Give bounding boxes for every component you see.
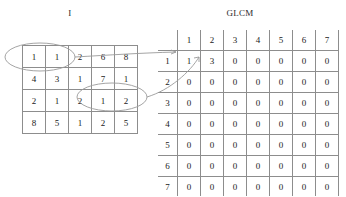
glcm-cell: 0 xyxy=(316,156,339,177)
glcm-cell: 0 xyxy=(316,114,339,135)
glcm-cell: 0 xyxy=(224,72,247,93)
glcm-cell: 0 xyxy=(270,135,293,156)
glcm-row-header: 2 xyxy=(158,72,178,93)
image-cell: 1 xyxy=(92,90,115,112)
image-cell: 1 xyxy=(69,68,92,90)
table-row: 6 0 0 0 0 0 0 0 xyxy=(158,156,339,177)
glcm-cell: 0 xyxy=(201,156,224,177)
image-cell: 2 xyxy=(69,46,92,68)
glcm-row-header: 5 xyxy=(158,135,178,156)
image-cell: 8 xyxy=(23,112,46,134)
glcm-col-header: 6 xyxy=(293,30,316,51)
image-cell: 1 xyxy=(23,46,46,68)
image-cell: 3 xyxy=(46,68,69,90)
glcm-cell: 1 xyxy=(178,51,201,72)
glcm-header: 1 2 3 4 5 6 7 xyxy=(158,30,339,51)
table-row: 7 0 0 0 0 0 0 0 xyxy=(158,177,339,197)
table-row: 8 5 1 2 5 xyxy=(23,112,138,134)
glcm-body: 1 1 3 0 0 0 0 0 2 0 0 0 0 0 0 0 3 0 0 0 … xyxy=(158,51,339,197)
glcm-cell: 0 xyxy=(316,135,339,156)
image-cell: 5 xyxy=(46,112,69,134)
glcm-row-header: 6 xyxy=(158,156,178,177)
glcm-cell: 0 xyxy=(247,93,270,114)
image-cell: 6 xyxy=(92,46,115,68)
table-row: 1 1 2 6 8 xyxy=(23,46,138,68)
glcm-cell: 0 xyxy=(178,177,201,197)
glcm-cell: 0 xyxy=(293,135,316,156)
glcm-cell: 0 xyxy=(224,135,247,156)
glcm-cell: 0 xyxy=(178,114,201,135)
glcm-cell: 0 xyxy=(270,177,293,197)
glcm-cell: 0 xyxy=(178,156,201,177)
image-cell: 8 xyxy=(115,46,138,68)
glcm-cell: 0 xyxy=(201,177,224,197)
image-cell: 2 xyxy=(23,90,46,112)
glcm-title: GLCM xyxy=(170,8,310,18)
image-cell: 7 xyxy=(92,68,115,90)
glcm-row-header: 4 xyxy=(158,114,178,135)
glcm-col-header: 2 xyxy=(201,30,224,51)
glcm-cell: 3 xyxy=(201,51,224,72)
glcm-cell: 0 xyxy=(270,114,293,135)
glcm-cell: 0 xyxy=(224,156,247,177)
glcm-cell: 0 xyxy=(270,51,293,72)
glcm-cell: 0 xyxy=(247,156,270,177)
glcm-cell: 0 xyxy=(201,72,224,93)
glcm-cell: 0 xyxy=(201,114,224,135)
glcm-col-header: 1 xyxy=(178,30,201,51)
image-cell: 1 xyxy=(69,112,92,134)
glcm-cell: 0 xyxy=(247,51,270,72)
image-cell: 4 xyxy=(23,68,46,90)
glcm-cell: 0 xyxy=(316,72,339,93)
glcm-cell: 0 xyxy=(270,93,293,114)
table-row: 2 1 2 1 2 xyxy=(23,90,138,112)
image-matrix-title: I xyxy=(0,8,140,18)
glcm-cell: 0 xyxy=(247,114,270,135)
glcm-cell: 0 xyxy=(224,93,247,114)
glcm-row-header: 3 xyxy=(158,93,178,114)
image-cell: 1 xyxy=(46,46,69,68)
table-row: 4 3 1 7 1 xyxy=(23,68,138,90)
table-row: 4 0 0 0 0 0 0 0 xyxy=(158,114,339,135)
image-cell: 2 xyxy=(92,112,115,134)
glcm-cell: 0 xyxy=(270,72,293,93)
glcm-cell: 0 xyxy=(293,72,316,93)
glcm-row-header: 7 xyxy=(158,177,178,197)
glcm-cell: 0 xyxy=(293,114,316,135)
table-row: 2 0 0 0 0 0 0 0 xyxy=(158,72,339,93)
image-cell: 2 xyxy=(115,90,138,112)
glcm-cell: 0 xyxy=(293,177,316,197)
glcm-cell: 0 xyxy=(247,177,270,197)
table-row: 3 0 0 0 0 0 0 0 xyxy=(158,93,339,114)
glcm-col-header: 5 xyxy=(270,30,293,51)
image-cell: 1 xyxy=(46,90,69,112)
glcm-col-header: 7 xyxy=(316,30,339,51)
glcm-cell: 0 xyxy=(178,72,201,93)
glcm-corner-cell xyxy=(158,30,178,51)
glcm-cell: 0 xyxy=(247,135,270,156)
glcm-cell: 0 xyxy=(293,93,316,114)
glcm-cell: 0 xyxy=(247,72,270,93)
glcm-cell: 0 xyxy=(316,93,339,114)
image-cell: 1 xyxy=(115,68,138,90)
glcm-cell: 0 xyxy=(178,135,201,156)
glcm-matrix: 1 2 3 4 5 6 7 1 1 3 0 0 0 0 0 2 0 0 0 0 … xyxy=(158,30,339,196)
glcm-cell: 0 xyxy=(224,177,247,197)
table-row: 1 2 3 4 5 6 7 xyxy=(158,30,339,51)
glcm-cell: 0 xyxy=(270,156,293,177)
table-row: 1 1 3 0 0 0 0 0 xyxy=(158,51,339,72)
glcm-cell: 0 xyxy=(201,135,224,156)
image-matrix-body: 1 1 2 6 8 4 3 1 7 1 2 1 2 1 2 8 5 1 2 5 xyxy=(23,46,138,134)
glcm-cell: 0 xyxy=(224,114,247,135)
table-row: 5 0 0 0 0 0 0 0 xyxy=(158,135,339,156)
glcm-col-header: 3 xyxy=(224,30,247,51)
glcm-row-header: 1 xyxy=(158,51,178,72)
image-matrix: 1 1 2 6 8 4 3 1 7 1 2 1 2 1 2 8 5 1 2 5 xyxy=(22,45,138,134)
glcm-cell: 0 xyxy=(224,51,247,72)
glcm-cell: 0 xyxy=(293,51,316,72)
image-cell: 5 xyxy=(115,112,138,134)
glcm-col-header: 4 xyxy=(247,30,270,51)
glcm-cell: 0 xyxy=(316,177,339,197)
glcm-cell: 0 xyxy=(178,93,201,114)
glcm-cell: 0 xyxy=(201,93,224,114)
